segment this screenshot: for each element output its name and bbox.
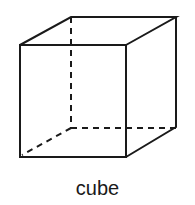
cube-right-edges: [126, 17, 176, 157]
cube-front-face: [20, 45, 126, 157]
cube-diagram: [0, 0, 195, 205]
figure-caption: cube: [0, 177, 195, 200]
cube-top-edges: [20, 17, 176, 45]
cube-hidden-depth-edge: [22, 128, 71, 155]
